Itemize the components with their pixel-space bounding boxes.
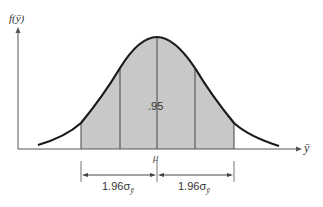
area-probability-label: .95 (148, 100, 163, 112)
left-interval-label: 1.96σȳ (102, 180, 134, 195)
y-axis-label: f(ȳ) (9, 12, 24, 24)
x-axis-arrow-icon (296, 147, 302, 152)
right-interval-arrow-left-icon (158, 173, 164, 177)
left-interval-arrow-left-icon (82, 173, 88, 177)
x-axis-label: ȳ (304, 141, 309, 156)
mu-label: μ (153, 151, 159, 163)
right-interval-arrow-right-icon (227, 173, 233, 177)
y-axis-arrow-icon (16, 27, 21, 33)
right-interval-label: 1.96σȳ (178, 180, 210, 195)
left-interval-arrow-right-icon (150, 173, 156, 177)
